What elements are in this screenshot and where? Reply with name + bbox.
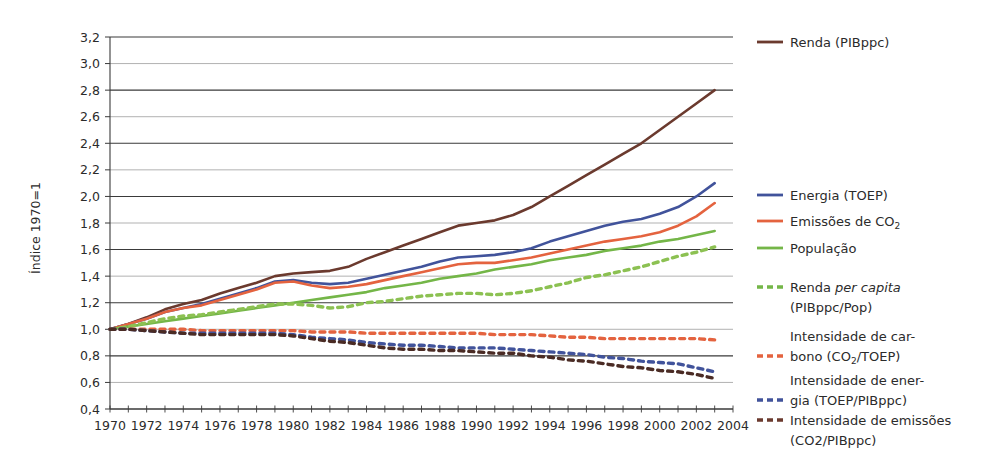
legend-label-int_energia: gia (TOEP/PIBppc) <box>790 393 907 408</box>
data-series <box>110 90 715 378</box>
x-tick-label: 1980 <box>277 418 309 433</box>
y-tick-label: 2,2 <box>80 162 100 177</box>
x-tick-label: 1970 <box>94 418 126 433</box>
x-tick-label: 1986 <box>387 418 419 433</box>
x-tick-label: 2002 <box>680 418 712 433</box>
y-tick-label: 1,4 <box>80 269 100 284</box>
x-tick-label: 1982 <box>314 418 346 433</box>
y-tick-label: 1,2 <box>80 295 100 310</box>
legend-label-int_carbono: Intensidade de car- <box>790 329 915 344</box>
series-energia <box>110 183 715 329</box>
x-tick-label: 1976 <box>204 418 236 433</box>
y-tick-label: 1,0 <box>80 322 100 337</box>
y-axis: 3,23,02,82,62,42,22,01,81,61,41,21,00,80… <box>80 30 110 417</box>
x-tick-label: 1994 <box>534 418 566 433</box>
chart-canvas: 3,23,02,82,62,42,22,01,81,61,41,21,00,80… <box>0 0 983 460</box>
x-tick-label: 2000 <box>644 418 676 433</box>
chart-figure: 3,23,02,82,62,42,22,01,81,61,41,21,00,80… <box>0 0 983 460</box>
y-tick-label: 0,4 <box>80 402 100 417</box>
x-tick-label: 1984 <box>351 418 383 433</box>
legend-label-int_emissoes: Intensidade de emissões <box>790 413 952 428</box>
legend-label-int_emissoes: (CO2/PIBppc) <box>790 433 876 448</box>
x-tick-label: 1992 <box>497 418 529 433</box>
y-tick-label: 3,0 <box>80 56 100 71</box>
legend-label-renda_pc: (PIBppc/Pop) <box>790 300 872 315</box>
y-tick-label: 1,6 <box>80 242 100 257</box>
legend-label-int_energia: Intensidade de ener- <box>790 373 925 388</box>
x-axis: 1970197219741976197819801982198419861988… <box>94 406 749 434</box>
x-tick-label: 1988 <box>424 418 456 433</box>
y-tick-label: 0,8 <box>80 348 100 363</box>
x-tick-label: 1998 <box>607 418 639 433</box>
x-tick-label: 1978 <box>241 418 273 433</box>
y-tick-label: 2,4 <box>80 136 100 151</box>
x-tick-label: 1972 <box>131 418 163 433</box>
x-tick-label: 1996 <box>571 418 603 433</box>
y-tick-label: 0,6 <box>80 375 100 390</box>
x-tick-label: 1990 <box>461 418 493 433</box>
y-tick-label: 2,6 <box>80 109 100 124</box>
gridlines <box>110 37 733 409</box>
y-tick-label: 3,2 <box>80 30 100 45</box>
legend-label-energia: Energia (TOEP) <box>790 188 888 203</box>
y-tick-label: 2,0 <box>80 189 100 204</box>
x-tick-label: 2004 <box>717 418 749 433</box>
legend-label-renda: Renda (PIBppc) <box>790 35 889 50</box>
series-int_emissoes <box>110 329 715 378</box>
legend-label-populacao: População <box>790 241 857 256</box>
legend-label-int_carbono: bono (CO2/TOEP) <box>790 349 900 366</box>
legend-label-emissoes: Emissões de CO2 <box>790 214 900 231</box>
legend-label-renda_pc: Renda per capita <box>790 280 901 295</box>
series-renda <box>110 90 715 329</box>
y-axis-label: Índice 1970=1 <box>28 182 43 274</box>
x-tick-label: 1974 <box>167 418 199 433</box>
chart-legend: Renda (PIBppc)Energia (TOEP)Emissões de … <box>757 35 952 448</box>
y-tick-label: 1,8 <box>80 216 100 231</box>
y-tick-label: 2,8 <box>80 83 100 98</box>
